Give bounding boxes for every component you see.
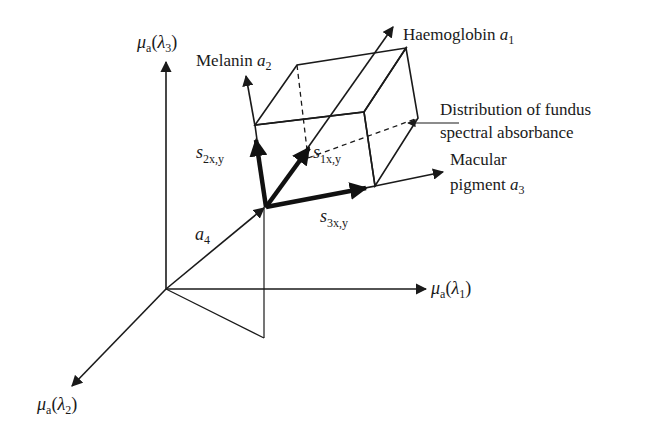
label-s2: s2x,y — [196, 142, 224, 166]
label-haemoglobin: Haemoglobin a1 — [403, 25, 514, 47]
label-axis-lambda3: μa(λ3) — [136, 32, 177, 55]
hidden-edge-vertical — [297, 65, 308, 158]
vector-s3 — [266, 188, 366, 207]
vector-macular-a3 — [375, 172, 443, 186]
basis-vectors — [246, 27, 443, 207]
vector-a4 — [166, 208, 264, 289]
label-macular-line1: Macular — [450, 150, 507, 169]
label-macular-line2: pigment a3 — [450, 175, 524, 197]
label-s1: s1x,y — [313, 142, 341, 166]
axes — [72, 62, 426, 386]
label-distribution-line1: Distribution of fundus — [440, 100, 591, 119]
absorbance-box — [255, 48, 418, 207]
label-melanin: Melanin a2 — [196, 51, 271, 73]
label-a4: a4 — [195, 224, 210, 247]
axis-lambda2 — [72, 289, 166, 386]
scaled-vectors — [256, 140, 366, 207]
label-axis-lambda1: μa(λ1) — [430, 278, 471, 301]
label-distribution-line2: spectral absorbance — [440, 123, 574, 142]
projection-lines — [166, 207, 264, 338]
label-s3: s3x,y — [320, 206, 348, 230]
label-axis-lambda2: μa(λ2) — [36, 394, 77, 417]
fundus-absorbance-vector-diagram: μa(λ3) μa(λ1) μa(λ2) Haemoglobin a1 Mela… — [0, 0, 665, 434]
box-top-face — [255, 48, 406, 125]
vector-melanin-a2 — [246, 76, 255, 126]
vector-s2 — [256, 140, 266, 207]
